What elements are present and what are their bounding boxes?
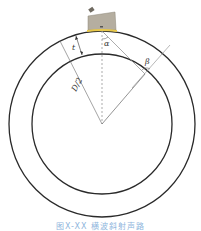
label-alpha: α <box>104 39 110 48</box>
reflected-path <box>102 74 145 124</box>
label-beta: β <box>144 57 150 66</box>
probe-connector <box>88 7 94 13</box>
label-small-mark: ᵃ <box>157 79 159 85</box>
pipe-cross-section-diagram: t D/2 α β ᵃ <box>0 0 201 231</box>
ultrasonic-probe <box>87 7 117 32</box>
label-thickness: t <box>72 43 76 52</box>
figure-caption: 图X-XX 横波斜射声路 <box>0 220 201 231</box>
beam-path <box>102 31 145 74</box>
probe-mark <box>100 26 103 28</box>
